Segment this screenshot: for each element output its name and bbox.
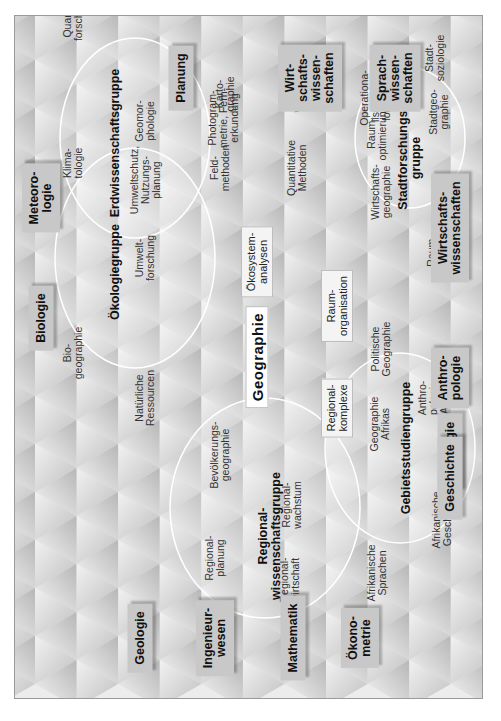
group-stadtforschungsgruppe: Stadtforschungs- gruppe bbox=[397, 106, 423, 209]
diagram-canvas: Geographie Ökosystem- analysen Regional-… bbox=[15, 16, 482, 698]
subfield-label: Bevölkerungs- geographie bbox=[209, 421, 231, 488]
discipline-sprachwissenschaften: Sprach- wissen- schaften bbox=[370, 44, 421, 111]
discipline-mathematik: Mathematik bbox=[281, 596, 306, 681]
center-label-geographie: Geographie bbox=[246, 306, 269, 408]
subfield-label: Feld- methoden bbox=[209, 145, 231, 192]
group-erdwissenschaftsgruppe: Erdwissenschaftsgruppe bbox=[109, 69, 122, 218]
subfield-label: Geographie Afrikas bbox=[369, 397, 391, 452]
discipline-anthropologie: Anthro- pologie bbox=[431, 347, 469, 408]
discipline-geologie: Geologie bbox=[128, 603, 153, 672]
discipline-planung: Planung bbox=[169, 45, 194, 110]
discipline-oekonometrie: Ökono- metrie bbox=[341, 608, 379, 668]
discipline-wirtschaftswissenschaften-bottom: Wirtschafts- wissenschaften bbox=[431, 173, 469, 282]
subfield-label: Photogram- metrie, Fern- erkundung bbox=[207, 88, 240, 148]
discipline-ingenieurwesen: Ingenieur- wesen bbox=[196, 600, 234, 676]
discipline-wirtschaftswissenschaften-top: Wirt- schafts- wissen- schaften bbox=[278, 44, 342, 111]
group-gebietsstudiengruppe: Gebietsstudiengruppe bbox=[400, 382, 413, 515]
discipline-biologie: Biologie bbox=[29, 285, 54, 350]
subfield-label: Umwelt- forschung bbox=[134, 235, 156, 281]
discipline-meteorologie: Meteoro- logie bbox=[22, 164, 60, 233]
box-regionalkomplexe: Regional- komplexe bbox=[321, 378, 353, 437]
subfield-label: Regional- wachstum bbox=[281, 481, 303, 528]
subfield-label: Politische Geographie bbox=[370, 322, 392, 377]
diagram-frame: Geographie Ökosystem- analysen Regional-… bbox=[14, 15, 483, 699]
subfield-label: Natürliche Ressourcen bbox=[134, 370, 156, 426]
subfield-label: Regional- planung bbox=[204, 536, 226, 581]
group-oekologiegruppe: Ökologiegruppe bbox=[109, 224, 122, 320]
subfield-label: Stadt- soziologie bbox=[424, 35, 446, 82]
subfield-label: Umweltschutz, Nutzungs- planung bbox=[129, 146, 162, 214]
subfield-label: Afrikanische Sprachen bbox=[366, 544, 388, 601]
subfield-label: Stadtgeo- graphie bbox=[428, 89, 450, 135]
box-oekosystemanalysen: Ökosystem- analysen bbox=[241, 227, 273, 298]
discipline-geschichte: Geschichte bbox=[438, 436, 463, 519]
subfield-label: Wirtschafts- geographie bbox=[370, 164, 392, 219]
subfield-label: Geomor- phologie bbox=[134, 100, 156, 141]
subfield-label: Klima- tologie bbox=[62, 148, 84, 179]
subfield-label: Quantitative Methoden bbox=[286, 140, 308, 196]
subfield-label: Quartär- forschung bbox=[62, 15, 84, 41]
subfield-label: Bio- geographie bbox=[62, 327, 84, 380]
box-raumorganisation: Raum- organisation bbox=[321, 270, 353, 342]
